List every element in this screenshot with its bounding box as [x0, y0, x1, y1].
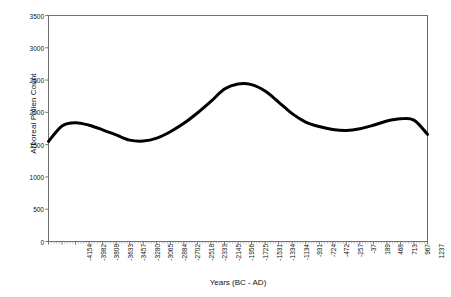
- chart-figure: Arboreal Pollen Count Years (BC - AD) 05…: [0, 0, 451, 297]
- plot-area: [0, 0, 451, 297]
- x-tick-marks: [49, 242, 428, 245]
- plot-frame: [49, 16, 428, 242]
